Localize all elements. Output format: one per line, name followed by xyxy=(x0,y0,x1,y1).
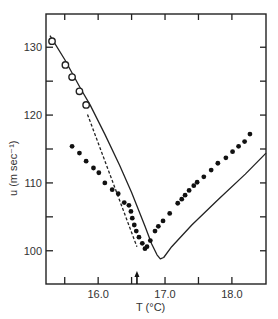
filled-point xyxy=(148,238,153,243)
filled-point xyxy=(236,144,241,149)
filled-point xyxy=(127,203,132,208)
filled-point xyxy=(223,155,228,160)
filled-point xyxy=(84,159,89,164)
filled-point xyxy=(209,168,214,173)
filled-point xyxy=(77,151,82,156)
open-circle-point xyxy=(83,102,89,108)
filled-point xyxy=(130,216,135,221)
open-circle-point xyxy=(69,74,75,80)
chart: 16.017.018.0 100110120130 T (°C) u (m se… xyxy=(0,0,278,319)
filled-point xyxy=(230,149,235,154)
filled-point xyxy=(248,132,253,137)
filled-point xyxy=(183,193,188,198)
filled-point xyxy=(70,144,75,149)
filled-point xyxy=(145,244,150,249)
filled-point xyxy=(96,170,101,175)
filled-point xyxy=(156,224,161,229)
filled-point xyxy=(161,219,166,224)
open-circle-point xyxy=(76,88,82,94)
arrow-up-icon xyxy=(134,271,139,277)
y-tick-label: 120 xyxy=(24,109,42,121)
filled-point xyxy=(122,200,127,205)
filled-point xyxy=(134,229,139,234)
y-tick-label: 110 xyxy=(24,177,42,189)
x-tick-label: 16.0 xyxy=(87,288,108,300)
x-tick-label: 18.0 xyxy=(221,288,242,300)
filled-point xyxy=(195,180,200,185)
y-tick-label: 130 xyxy=(24,41,42,53)
filled-point xyxy=(242,139,247,144)
data-points xyxy=(49,38,253,251)
x-tick-label: 17.0 xyxy=(154,288,175,300)
filled-point xyxy=(91,166,96,171)
filled-point xyxy=(140,241,145,246)
filled-point xyxy=(137,235,142,240)
filled-point xyxy=(132,223,137,228)
filled-point xyxy=(129,209,134,214)
filled-point xyxy=(116,191,121,196)
filled-point xyxy=(153,229,158,234)
open-circle-point xyxy=(49,38,55,44)
open-circle-point xyxy=(62,62,68,68)
filled-point xyxy=(110,187,115,192)
y-axis-label: u (m sec⁻¹) xyxy=(7,141,19,197)
y-tick-label: 100 xyxy=(24,245,42,257)
filled-point xyxy=(179,197,184,202)
filled-point xyxy=(201,174,206,179)
filled-point xyxy=(175,201,180,206)
filled-point xyxy=(215,161,220,166)
x-axis-ticks: 16.017.018.0 xyxy=(65,14,243,300)
plot-frame xyxy=(46,14,266,284)
x-axis-label: T (°C) xyxy=(136,301,165,313)
filled-point xyxy=(187,188,192,193)
filled-point xyxy=(167,211,172,216)
annotations xyxy=(134,271,139,284)
filled-point xyxy=(102,181,107,186)
dashed-line xyxy=(88,114,137,246)
